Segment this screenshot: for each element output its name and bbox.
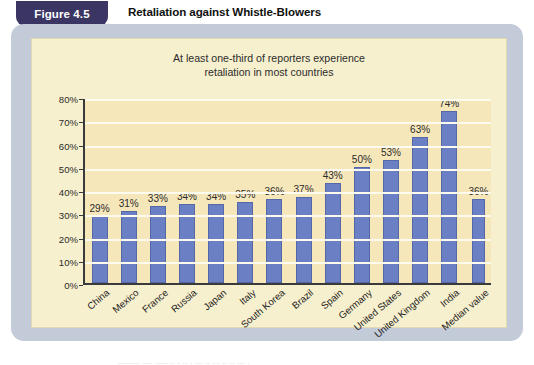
x-axis-tick-label: Russia bbox=[169, 287, 199, 314]
bar[interactable] bbox=[150, 206, 166, 283]
figure-number-tag: Figure 4.5 bbox=[16, 1, 108, 26]
chart-container: At least one-third of reporters experien… bbox=[31, 38, 507, 328]
bar[interactable] bbox=[121, 211, 137, 283]
chart-title: At least one-third of reporters experien… bbox=[32, 51, 506, 79]
cropped-footnote: ......... .... ..... .. . .. . ... .. . … bbox=[0, 352, 534, 365]
bar[interactable] bbox=[472, 199, 485, 283]
y-axis-tick-mark bbox=[79, 285, 83, 286]
bar-slot: 37% bbox=[289, 97, 318, 283]
bar-series: 29%31%33%34%34%35%36%37%43%50%53%63%74%3… bbox=[85, 97, 493, 283]
gridline bbox=[85, 262, 491, 264]
bar-value-label: 43% bbox=[323, 170, 343, 181]
bar-slot: 50% bbox=[347, 97, 376, 283]
gridline bbox=[85, 239, 491, 241]
gridline bbox=[85, 169, 491, 171]
y-axis-tick-label: 80% bbox=[59, 94, 78, 105]
x-axis-tick-label: Italy bbox=[237, 287, 258, 307]
gridline bbox=[85, 122, 491, 124]
x-axis-tick-label: Brazil bbox=[290, 287, 316, 311]
bar-value-label: 63% bbox=[410, 124, 430, 135]
gridline bbox=[85, 146, 491, 148]
bar[interactable] bbox=[92, 216, 108, 283]
bar-slot: 63% bbox=[406, 97, 435, 283]
gridline bbox=[85, 99, 491, 101]
bar-value-label: 35% bbox=[235, 189, 255, 200]
bar[interactable] bbox=[266, 199, 282, 283]
bar-slot: 74% bbox=[435, 97, 464, 283]
y-axis-tick-label: 0% bbox=[64, 280, 78, 291]
y-axis-tick-label: 70% bbox=[59, 117, 78, 128]
x-axis-tick-label: Japan bbox=[201, 287, 228, 312]
bar-value-label: 29% bbox=[90, 203, 110, 214]
bar[interactable] bbox=[325, 183, 341, 283]
bar-value-label: 50% bbox=[352, 154, 372, 165]
bar[interactable] bbox=[441, 111, 457, 283]
plot-area-wrapper: 29%31%33%34%34%35%36%37%43%50%53%63%74%3… bbox=[83, 99, 491, 285]
y-axis-tick-label: 50% bbox=[59, 163, 78, 174]
x-axis-tick-label: China bbox=[85, 287, 111, 312]
bar[interactable] bbox=[354, 167, 370, 283]
bar-value-label: 33% bbox=[148, 193, 168, 204]
y-axis-tick-label: 20% bbox=[59, 233, 78, 244]
chart-title-line-1: At least one-third of reporters experien… bbox=[32, 51, 506, 65]
y-axis: 0%10%20%30%40%50%60%70%80% bbox=[32, 99, 83, 285]
bar-slot: 43% bbox=[318, 97, 347, 283]
gridline bbox=[85, 215, 491, 217]
bar-slot: 34% bbox=[172, 97, 201, 283]
y-axis-tick-label: 10% bbox=[59, 256, 78, 267]
x-axis-tick-label: France bbox=[140, 287, 170, 315]
bar-slot: 31% bbox=[114, 97, 143, 283]
cropped-footnote-text: ......... .... ..... .. . .. . ... .. . … bbox=[118, 357, 534, 365]
bar-slot: 53% bbox=[376, 97, 405, 283]
plot-area: 29%31%33%34%34%35%36%37%43%50%53%63%74%3… bbox=[83, 99, 491, 285]
y-axis-tick-label: 40% bbox=[59, 187, 78, 198]
x-axis-tick-label: India bbox=[438, 287, 461, 309]
bar[interactable] bbox=[383, 160, 399, 283]
bar-slot: 36% bbox=[464, 97, 493, 283]
chart-title-line-2: retaliation in most countries bbox=[32, 65, 506, 79]
x-axis-tick-label: Mexico bbox=[110, 287, 141, 315]
bar-slot: 36% bbox=[260, 97, 289, 283]
y-axis-tick-label: 60% bbox=[59, 140, 78, 151]
y-axis-tick-label: 30% bbox=[59, 210, 78, 221]
bar-slot: 34% bbox=[202, 97, 231, 283]
figure-heading: Retaliation against Whistle-Blowers bbox=[128, 5, 321, 18]
bar[interactable] bbox=[237, 202, 253, 283]
bar-slot: 33% bbox=[143, 97, 172, 283]
bar-value-label: 53% bbox=[381, 147, 401, 158]
gridline bbox=[85, 192, 491, 194]
x-axis-labels: ChinaMexicoFranceRussiaJapanItalySouth K… bbox=[83, 287, 491, 347]
bar-slot: 35% bbox=[231, 97, 260, 283]
bar-value-label: 31% bbox=[119, 198, 139, 209]
figure-panel: At least one-third of reporters experien… bbox=[11, 24, 523, 341]
bar-slot: 29% bbox=[85, 97, 114, 283]
